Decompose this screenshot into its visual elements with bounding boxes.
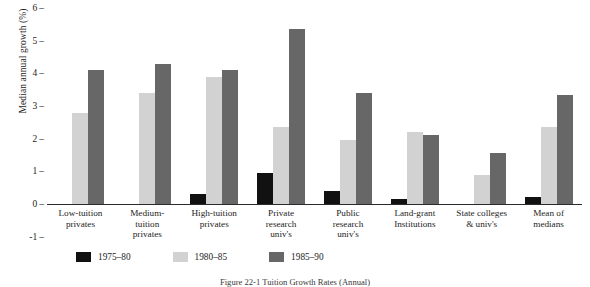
legend-swatch bbox=[269, 252, 284, 262]
bar bbox=[490, 153, 506, 204]
legend-item: 1975–80 bbox=[76, 252, 131, 262]
bar bbox=[222, 70, 238, 204]
bar-group-bars bbox=[47, 8, 114, 204]
bar-group-bars bbox=[315, 8, 382, 204]
bar-group bbox=[47, 8, 114, 204]
category-label-line: Low-tuition bbox=[48, 208, 113, 219]
category-label-line: privates bbox=[48, 219, 113, 230]
y-tick-label: 0 bbox=[33, 199, 38, 209]
y-tick-mark: – bbox=[39, 134, 44, 144]
bar bbox=[557, 95, 573, 204]
legend-label: 1975–80 bbox=[98, 252, 131, 262]
bar-group bbox=[181, 8, 248, 204]
category-label-line: research bbox=[249, 219, 314, 230]
bar bbox=[190, 194, 206, 204]
x-axis-category-labels: Low-tuitionprivatesMedium-tuitionprivate… bbox=[47, 208, 582, 240]
category-label-line: Mean of bbox=[516, 208, 581, 219]
bar bbox=[206, 77, 222, 204]
y-tick-mark: – bbox=[39, 101, 44, 111]
bar bbox=[88, 70, 104, 204]
bar-group-bars bbox=[114, 8, 181, 204]
y-tick-3: 3– bbox=[33, 101, 48, 111]
bar bbox=[257, 173, 273, 204]
category-label-line: univ's bbox=[249, 229, 314, 240]
x-axis-category-label: State colleges& univ's bbox=[448, 208, 515, 240]
category-label-line: High-tuition bbox=[182, 208, 247, 219]
category-label-line: & univ's bbox=[449, 219, 514, 230]
bar bbox=[356, 93, 372, 204]
bar-group bbox=[515, 8, 582, 204]
x-axis-category-label: Low-tuitionprivates bbox=[47, 208, 114, 240]
x-axis-category-label: Medium-tuitionprivates bbox=[114, 208, 181, 240]
legend-swatch bbox=[76, 252, 91, 262]
y-tick-label: 1 bbox=[33, 166, 38, 176]
bar bbox=[324, 191, 340, 204]
bar bbox=[423, 135, 439, 204]
x-axis-line bbox=[47, 204, 582, 205]
y-tick-label: -1 bbox=[29, 232, 37, 242]
x-axis-category-label: High-tuitionprivates bbox=[181, 208, 248, 240]
bar bbox=[391, 199, 407, 204]
category-label-line: Public bbox=[316, 208, 381, 219]
category-label-line: Medium- bbox=[115, 208, 180, 219]
y-tick-mark: – bbox=[39, 232, 44, 242]
y-tick-mark: – bbox=[39, 199, 44, 209]
bar bbox=[474, 175, 490, 204]
category-label-line: univ's bbox=[316, 229, 381, 240]
bar-group-bars bbox=[381, 8, 448, 204]
y-tick-neg1: -1– bbox=[29, 232, 47, 242]
category-label-line: State colleges bbox=[449, 208, 514, 219]
y-tick-4: 4– bbox=[33, 68, 48, 78]
category-label-line: Land-grant bbox=[382, 208, 447, 219]
y-tick-mark: – bbox=[39, 68, 44, 78]
bar bbox=[340, 140, 356, 204]
category-label-line: research bbox=[316, 219, 381, 230]
y-tick-label: 5 bbox=[33, 36, 38, 46]
category-label-line: Institutions bbox=[382, 219, 447, 230]
bar-group bbox=[381, 8, 448, 204]
bar-group bbox=[248, 8, 315, 204]
plot-area: 6–5–4–3–2–1–0–-1– bbox=[47, 8, 582, 204]
y-tick-mark: – bbox=[39, 3, 44, 13]
chart-legend: 1975–801980–851985–90 bbox=[76, 252, 366, 262]
y-tick-label: 6 bbox=[33, 3, 38, 13]
y-tick-mark: – bbox=[39, 36, 44, 46]
bar-groups bbox=[47, 8, 582, 204]
bar-group bbox=[448, 8, 515, 204]
bar-group bbox=[114, 8, 181, 204]
bar bbox=[541, 127, 557, 204]
figure-caption: Figure 22-1 Tuition Growth Rates (Annual… bbox=[0, 277, 590, 287]
bar bbox=[72, 113, 88, 204]
legend-label: 1980–85 bbox=[195, 252, 228, 262]
y-tick-label: 2 bbox=[33, 134, 38, 144]
y-tick-label: 3 bbox=[33, 101, 38, 111]
category-label-line: Private bbox=[249, 208, 314, 219]
bar bbox=[289, 29, 305, 204]
y-tick-label: 4 bbox=[33, 68, 38, 78]
x-axis-category-label: Land-grantInstitutions bbox=[381, 208, 448, 240]
x-axis-category-label: Mean ofmedians bbox=[515, 208, 582, 240]
category-label-line: tuition bbox=[115, 219, 180, 230]
category-label-line: privates bbox=[115, 229, 180, 240]
bar bbox=[139, 93, 155, 204]
bar-group-bars bbox=[248, 8, 315, 204]
category-label-line: privates bbox=[182, 219, 247, 230]
bar-group bbox=[315, 8, 382, 204]
y-axis-title: Median annual growth (%) bbox=[18, 0, 28, 136]
bar bbox=[525, 197, 541, 204]
y-tick-1: 1– bbox=[33, 166, 48, 176]
y-tick-2: 2– bbox=[33, 134, 48, 144]
y-tick-6: 6– bbox=[33, 3, 48, 13]
legend-label: 1985–90 bbox=[291, 252, 324, 262]
bar bbox=[155, 64, 171, 204]
x-axis-category-label: Privateresearchuniv's bbox=[248, 208, 315, 240]
x-axis-category-label: Publicresearchuniv's bbox=[315, 208, 382, 240]
bar bbox=[407, 132, 423, 204]
y-tick-5: 5– bbox=[33, 36, 48, 46]
category-label-line: medians bbox=[516, 219, 581, 230]
y-tick-0: 0– bbox=[33, 199, 48, 209]
bar-group-bars bbox=[181, 8, 248, 204]
legend-item: 1980–85 bbox=[173, 252, 228, 262]
legend-swatch bbox=[173, 252, 188, 262]
